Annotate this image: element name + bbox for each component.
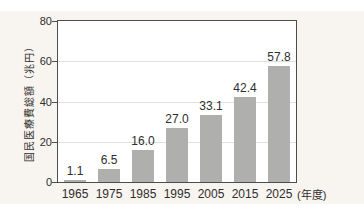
y-tick-label-80: 80 xyxy=(20,15,52,27)
y-tick-label-0: 0 xyxy=(20,176,52,188)
y-tick-mark-40 xyxy=(52,102,57,103)
y-tick-label-60: 60 xyxy=(20,55,52,67)
bar-value-label-2025: 57.8 xyxy=(257,51,301,63)
bar-value-label-2015: 42.4 xyxy=(223,82,267,94)
bar-1995 xyxy=(166,128,188,182)
y-tick-mark-0 xyxy=(52,182,57,183)
bar-1965 xyxy=(64,180,86,182)
bar-value-label-2005: 33.1 xyxy=(189,100,233,112)
bar-2025 xyxy=(268,66,290,182)
plot-area: 1.16.516.027.033.142.457.8 xyxy=(57,20,297,183)
y-tick-mark-60 xyxy=(52,61,57,62)
bar-2005 xyxy=(200,115,222,182)
bar-value-label-1975: 6.5 xyxy=(87,154,131,166)
y-tick-mark-80 xyxy=(52,21,57,22)
bar-1985 xyxy=(132,150,154,182)
x-tick-label-2025: 2025 xyxy=(257,188,301,201)
bar-value-label-1995: 27.0 xyxy=(155,113,199,125)
y-tick-label-20: 20 xyxy=(20,136,52,148)
gridline-40 xyxy=(58,102,296,103)
x-axis-unit-label: (年度) xyxy=(297,189,326,202)
bar-value-label-1985: 16.0 xyxy=(121,135,165,147)
y-tick-label-40: 40 xyxy=(20,96,52,108)
bar-1975 xyxy=(98,169,120,182)
y-tick-mark-20 xyxy=(52,142,57,143)
bar-2015 xyxy=(234,97,256,182)
bar-value-label-1965: 1.1 xyxy=(53,165,97,177)
bar-chart-figure: 国民医療費総額（兆円） 1.16.516.027.033.142.457.8 0… xyxy=(0,0,364,213)
